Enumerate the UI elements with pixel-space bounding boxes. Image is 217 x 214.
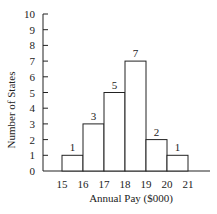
x-tick-label: 17 [99, 178, 111, 190]
x-axis-title: Annual Pay ($000) [89, 192, 173, 205]
bar-value-label: 5 [112, 79, 118, 91]
x-tick-label: 21 [183, 178, 194, 190]
histogram-bar [167, 155, 188, 171]
y-axis-title: Number of States [5, 72, 17, 149]
y-tick-label: 0 [30, 165, 36, 177]
bar-value-label: 3 [91, 110, 97, 122]
y-tick-label: 9 [30, 24, 36, 36]
bar-value-label: 1 [70, 141, 76, 153]
y-tick-label: 10 [24, 8, 36, 20]
x-tick-label: 18 [120, 178, 132, 190]
histogram-bar [62, 155, 83, 171]
histogram-bar [104, 93, 125, 172]
x-tick-label: 15 [57, 178, 69, 190]
histogram-chart: 01234567891013572115161718192021Annual P… [0, 0, 217, 214]
y-tick-label: 3 [30, 118, 36, 130]
x-tick-label: 19 [141, 178, 153, 190]
x-tick-label: 20 [162, 178, 174, 190]
y-tick-label: 4 [30, 102, 36, 114]
y-tick-label: 6 [30, 71, 36, 83]
histogram-bar [125, 61, 146, 171]
bar-value-label: 7 [133, 47, 139, 59]
y-tick-label: 1 [30, 149, 36, 161]
y-tick-label: 8 [30, 39, 36, 51]
histogram-bar [83, 124, 104, 171]
y-tick-label: 2 [30, 134, 36, 146]
bar-value-label: 2 [154, 126, 160, 138]
y-tick-label: 5 [30, 87, 36, 99]
y-tick-label: 7 [30, 55, 36, 67]
bar-value-label: 1 [175, 141, 181, 153]
histogram-bar [146, 140, 167, 171]
x-tick-label: 16 [78, 178, 90, 190]
